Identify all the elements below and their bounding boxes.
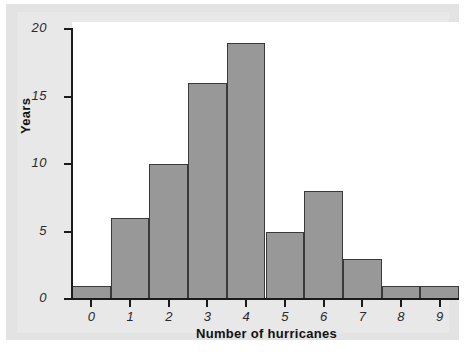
histogram-bar bbox=[72, 286, 111, 300]
histogram-bar bbox=[420, 286, 459, 300]
histogram-bar bbox=[304, 191, 343, 299]
x-axis-tick bbox=[439, 300, 441, 307]
histogram-bar bbox=[149, 164, 188, 299]
y-axis-tick-label: 20 bbox=[17, 20, 47, 35]
x-axis-tick bbox=[168, 300, 170, 307]
x-axis-tick bbox=[323, 300, 325, 307]
x-axis-tick bbox=[284, 300, 286, 307]
x-axis-tick-label: 9 bbox=[429, 309, 451, 324]
histogram-bar bbox=[266, 232, 305, 300]
x-axis-tick-label: 6 bbox=[313, 309, 335, 324]
y-axis-tick bbox=[64, 28, 72, 30]
y-axis-tick bbox=[64, 96, 72, 98]
x-axis-tick-label: 0 bbox=[80, 309, 102, 324]
histogram-bar bbox=[111, 218, 150, 299]
y-axis-tick-label: 0 bbox=[17, 290, 47, 305]
chart-page: 05101520 0123456789 Number of hurricanes… bbox=[0, 0, 466, 357]
figure-panel: 05101520 0123456789 Number of hurricanes… bbox=[6, 4, 459, 340]
x-axis-tick-label: 2 bbox=[158, 309, 180, 324]
x-axis-tick bbox=[129, 300, 131, 307]
x-axis-tick-label: 3 bbox=[196, 309, 218, 324]
histogram-bar bbox=[227, 43, 266, 300]
y-axis-title: Years bbox=[18, 98, 33, 134]
x-axis-tick-label: 7 bbox=[351, 309, 373, 324]
histogram-bar bbox=[382, 286, 421, 300]
x-axis-tick bbox=[90, 300, 92, 307]
y-axis-tick bbox=[64, 231, 72, 233]
x-axis-tick bbox=[206, 300, 208, 307]
y-axis-tick-label: 10 bbox=[17, 155, 47, 170]
x-axis-tick-label: 5 bbox=[274, 309, 296, 324]
y-axis-tick bbox=[64, 298, 72, 300]
x-axis-tick-label: 8 bbox=[390, 309, 412, 324]
x-axis-tick-label: 4 bbox=[235, 309, 257, 324]
histogram-bar bbox=[343, 259, 382, 300]
x-axis-tick bbox=[400, 300, 402, 307]
x-axis-tick bbox=[361, 300, 363, 307]
x-axis-tick bbox=[245, 300, 247, 307]
x-axis-title: Number of hurricanes bbox=[72, 326, 461, 341]
y-axis-tick-label: 5 bbox=[17, 223, 47, 238]
x-axis-tick-label: 1 bbox=[119, 309, 141, 324]
y-axis-tick bbox=[64, 163, 72, 165]
histogram-bar bbox=[188, 83, 227, 299]
